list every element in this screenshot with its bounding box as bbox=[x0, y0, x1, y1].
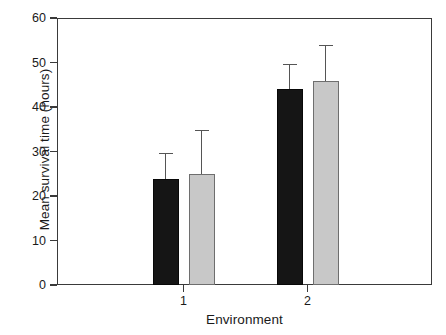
error-bar-cap-dark-env-2 bbox=[283, 64, 297, 65]
y-tick-label: 40 bbox=[8, 99, 46, 115]
y-tick-mark bbox=[50, 284, 57, 285]
x-tick-mark bbox=[183, 285, 184, 292]
error-bar-cap-light-env-1 bbox=[195, 130, 209, 131]
error-bar-cap-dark-env-1 bbox=[159, 153, 173, 154]
y-tick-mark bbox=[50, 240, 57, 241]
error-bar-cap-light-env-2 bbox=[319, 45, 333, 46]
y-tick-label: 0 bbox=[8, 277, 46, 293]
y-tick-label: 20 bbox=[8, 188, 46, 204]
y-tick-mark bbox=[50, 151, 57, 152]
y-tick-label: 50 bbox=[8, 55, 46, 71]
error-bar-stem-light-env-2 bbox=[325, 45, 326, 81]
y-tick-mark bbox=[50, 17, 57, 18]
x-tick-mark bbox=[307, 285, 308, 292]
y-tick-label: 60 bbox=[8, 10, 46, 26]
y-tick-label: 10 bbox=[8, 233, 46, 249]
x-axis-title: Environment bbox=[57, 312, 432, 327]
x-tick-label: 2 bbox=[288, 294, 328, 308]
y-tick-mark bbox=[50, 106, 57, 107]
bar-light-env-1 bbox=[189, 174, 215, 285]
y-tick-mark bbox=[50, 195, 57, 196]
bar-light-env-2 bbox=[313, 81, 339, 285]
y-tick-label: 30 bbox=[8, 144, 46, 160]
y-tick-mark bbox=[50, 62, 57, 63]
error-bar-stem-light-env-1 bbox=[201, 130, 202, 174]
bar-chart: Mean survival time (hours) 0102030405060… bbox=[0, 0, 446, 335]
x-tick-label: 1 bbox=[164, 294, 204, 308]
error-bar-stem-dark-env-2 bbox=[289, 64, 290, 89]
bar-dark-env-1 bbox=[153, 179, 179, 285]
error-bar-stem-dark-env-1 bbox=[165, 153, 166, 179]
plot-area bbox=[57, 18, 432, 285]
bar-dark-env-2 bbox=[277, 89, 303, 285]
